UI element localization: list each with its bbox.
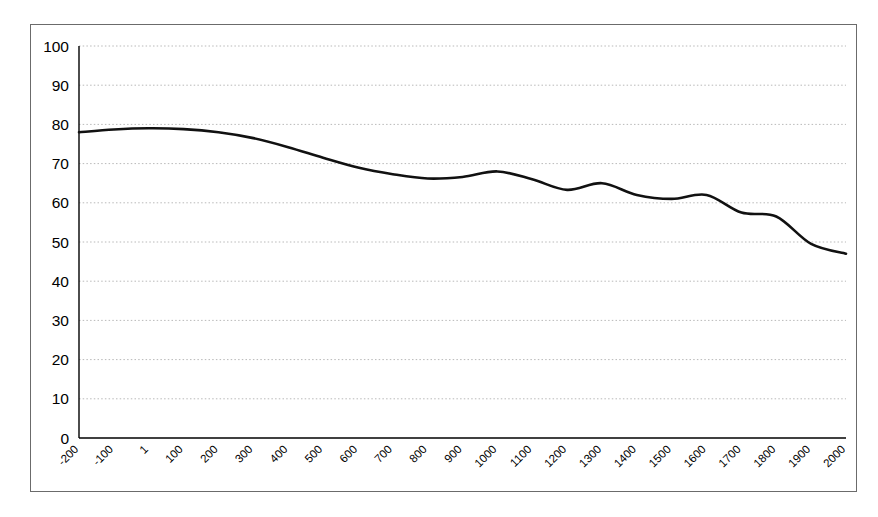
- x-axis-tick-label: 1000: [472, 443, 499, 470]
- data-series-line: [79, 128, 846, 253]
- x-axis-tick-label: 1800: [751, 443, 778, 470]
- x-axis-tick-label: 1200: [542, 443, 569, 470]
- x-axis-tick-label: 400: [268, 443, 290, 465]
- x-axis-tick-label: 700: [372, 443, 394, 465]
- x-axis-tick-label: 500: [302, 443, 324, 465]
- y-axis-tick-label: 70: [52, 155, 70, 172]
- line-chart-svg: 0102030405060708090100 -200-100110020030…: [31, 25, 855, 490]
- x-axis-tick-labels: -200-10011002003004005006007008009001000…: [56, 443, 848, 470]
- x-axis-tick-label: 100: [163, 443, 185, 465]
- x-axis-tick-label: 1400: [612, 443, 639, 470]
- x-axis-tick-label: -200: [56, 443, 81, 468]
- x-axis-tick-label: 1600: [681, 443, 708, 470]
- x-axis-tick-label: 900: [442, 443, 464, 465]
- x-axis-tick-label: 1: [137, 443, 150, 456]
- x-axis-tick-label: 800: [407, 443, 429, 465]
- y-axis-tick-label: 90: [52, 77, 70, 94]
- y-axis-tick-label: 20: [52, 351, 70, 368]
- x-axis-tick-label: 1100: [508, 443, 534, 469]
- x-axis-tick-label: 1700: [716, 443, 743, 470]
- y-axis-tick-label: 0: [60, 430, 69, 447]
- x-axis-tick-label: 600: [337, 443, 359, 465]
- y-axis-tick-label: 30: [52, 312, 70, 329]
- chart-figure: 0102030405060708090100 -200-100110020030…: [30, 24, 857, 492]
- y-axis-tick-label: 100: [43, 38, 69, 55]
- y-axis-tick-label: 50: [52, 234, 70, 251]
- x-axis-tick-label: 1900: [786, 443, 813, 470]
- x-axis-tick-label: 1300: [577, 443, 604, 470]
- x-axis-tick-label: 2000: [821, 443, 848, 470]
- y-axis-tick-label: 80: [52, 116, 70, 133]
- y-axis-tick-label: 60: [52, 194, 70, 211]
- y-axis-tick-label: 10: [52, 390, 70, 407]
- x-axis-tick-label: -100: [91, 443, 116, 468]
- y-axis-tick-labels: 0102030405060708090100: [43, 38, 69, 447]
- x-axis-tick-label: 1500: [647, 443, 674, 470]
- x-axis-tick-label: 200: [198, 443, 220, 465]
- gridlines-group: [79, 46, 846, 399]
- y-axis-tick-label: 40: [52, 273, 70, 290]
- x-axis-tick-label: 300: [233, 443, 255, 465]
